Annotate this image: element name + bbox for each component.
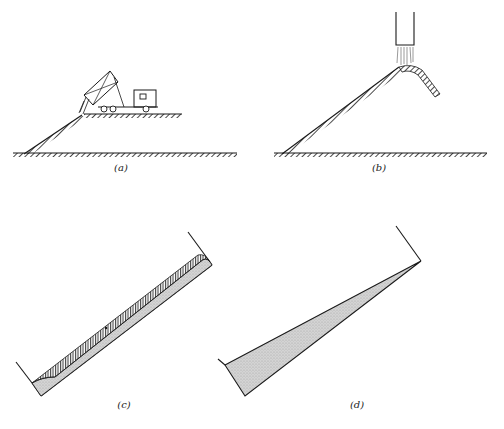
container-wall-left: [218, 359, 225, 365]
caption-b: (b): [372, 162, 386, 173]
wheel: [101, 106, 107, 112]
container-wall-left: [16, 362, 32, 383]
ground-hatch: [13, 153, 237, 157]
upper-layer: [32, 255, 210, 383]
container-wall-right: [396, 226, 421, 261]
panel-b: [274, 12, 487, 157]
panel-a: [13, 71, 237, 157]
falling-stream: [397, 47, 413, 65]
lower-layer: [32, 259, 212, 396]
discharge-chute: [396, 12, 414, 45]
wheel: [143, 106, 149, 112]
dump-bed: [84, 71, 118, 105]
marker-dot: [105, 327, 108, 330]
pile-right-slope: [399, 66, 440, 97]
truck-cab: [134, 90, 156, 107]
ground-hatch: [274, 153, 487, 157]
truck-window: [140, 94, 146, 99]
panel-d: [218, 226, 421, 396]
wedge-fill: [225, 261, 421, 396]
slope-fill: [24, 116, 88, 154]
caption-d: (d): [350, 399, 364, 410]
caption-c: (c): [117, 399, 130, 410]
diagram-canvas: [0, 0, 504, 429]
dump-truck: [79, 71, 158, 114]
wheel: [110, 106, 116, 112]
caption-a: (a): [114, 162, 128, 173]
slope-line: [24, 115, 82, 154]
panel-c: [16, 232, 212, 396]
